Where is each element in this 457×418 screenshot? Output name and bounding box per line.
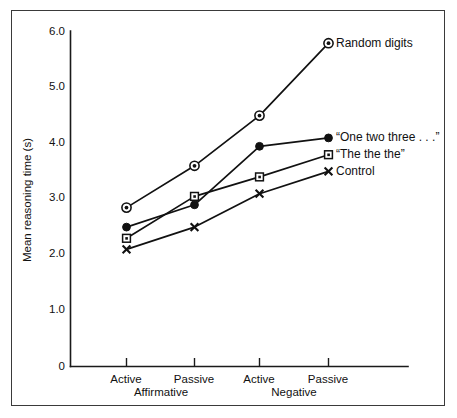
series-line-one-two-three: [127, 138, 329, 227]
axes-group: [71, 31, 409, 367]
legend-label-random-digits: Random digits: [336, 36, 413, 50]
y-axis-title: Mean reasoning time (s): [21, 138, 33, 262]
data-point: [190, 161, 199, 170]
data-point: [123, 234, 131, 242]
y-tick-label: 6.0: [49, 25, 65, 37]
x-tick-label: Active: [243, 373, 274, 385]
data-point: [256, 142, 264, 150]
y-tick-label: 1.0: [49, 303, 65, 315]
legend-inline: Random digits “One two three . . .” “The…: [336, 36, 439, 178]
data-point: [191, 193, 199, 201]
data-point: [191, 223, 199, 231]
data-point: [191, 201, 199, 209]
line-chart: 6.0 5.0 4.0 3.0 2.0 1.0 0 Mean reasoning…: [0, 0, 457, 418]
data-point: [123, 246, 131, 254]
data-point: [123, 223, 131, 231]
markers-the-the-the: [123, 151, 333, 242]
series-line-control: [127, 171, 329, 249]
y-tick-label: 0: [59, 360, 65, 372]
y-axis-title-group: Mean reasoning time (s): [21, 138, 33, 262]
x-ticks: [127, 358, 329, 367]
y-tick-label: 3.0: [49, 191, 65, 203]
data-point: [256, 173, 264, 181]
x-tick-label: Passive: [308, 373, 348, 385]
x-tick-label: Passive: [174, 373, 214, 385]
y-tick-label: 2.0: [49, 247, 65, 259]
legend-label-control: Control: [336, 164, 375, 178]
y-tick-label: 4.0: [49, 136, 65, 148]
data-point: [122, 203, 131, 212]
legend-label-one-two-three: “One two three . . .”: [336, 130, 439, 144]
x-group-label-affirmative: Affirmative: [134, 386, 188, 398]
series-line-random-digits: [127, 43, 329, 207]
x-group-labels: Affirmative Negative: [134, 386, 317, 398]
markers-one-two-three: [123, 134, 333, 231]
figure-container: 6.0 5.0 4.0 3.0 2.0 1.0 0 Mean reasoning…: [0, 0, 457, 418]
data-point: [325, 134, 333, 142]
x-tick-labels: Active Passive Active Passive: [110, 373, 348, 385]
x-group-label-negative: Negative: [271, 386, 316, 398]
data-point: [325, 151, 333, 159]
y-tick-label: 5.0: [49, 80, 65, 92]
y-tick-labels: 6.0 5.0 4.0 3.0 2.0 1.0 0: [49, 25, 65, 372]
data-point: [255, 111, 264, 120]
x-tick-label: Active: [110, 373, 141, 385]
data-point: [324, 39, 333, 48]
series-line-the-the-the: [127, 155, 329, 239]
series-lines: [127, 43, 329, 249]
legend-label-the-the-the: “The the the”: [336, 147, 405, 161]
